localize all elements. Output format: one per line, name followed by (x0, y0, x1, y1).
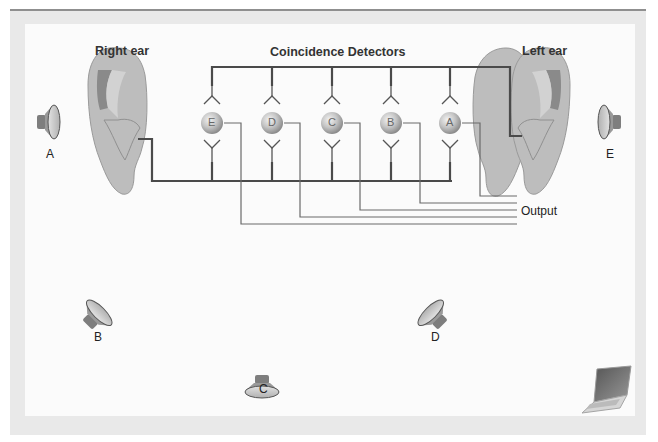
detector-label-C: C (328, 116, 336, 128)
right-ear-label: Right ear (95, 44, 149, 58)
left-ear-label: Left ear (522, 44, 567, 58)
detector-label-A: A (446, 116, 453, 128)
right-ear-icon (88, 48, 147, 195)
speaker-label-A: A (46, 147, 54, 161)
speaker-icon (37, 105, 60, 139)
laptop-icon (582, 366, 631, 413)
output-lines (224, 123, 517, 224)
coincidence-detectors-title: Coincidence Detectors (270, 45, 405, 59)
speaker-icon (598, 105, 621, 139)
right-ear-axon (138, 139, 452, 181)
speaker-label-C: C (259, 382, 268, 396)
detector-label-E: E (208, 116, 215, 128)
speaker-label-B: B (94, 330, 102, 344)
output-label: Output (521, 204, 557, 218)
speaker-label-D: D (431, 330, 440, 344)
detector-label-B: B (387, 116, 394, 128)
detector-label-D: D (268, 116, 276, 128)
speaker-label-E: E (606, 147, 614, 161)
left-ear-shape (511, 48, 570, 195)
neural-circuit-diagram (0, 0, 658, 442)
